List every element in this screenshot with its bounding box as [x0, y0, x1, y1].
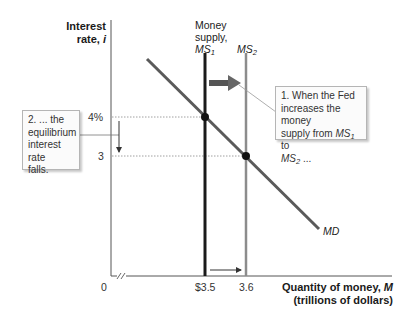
ms1-label: Money supply, MS1	[195, 19, 228, 55]
y-axis-title: Interest rate, i	[66, 20, 106, 46]
md-label: MD	[323, 225, 339, 237]
x-tick-3-6: 3.6	[239, 281, 254, 293]
axis-break-icon	[117, 271, 126, 281]
x-axis-title-line2: (trillions of dollars)	[282, 294, 393, 307]
origin-label: 0	[101, 281, 107, 293]
ms2-label: MS2	[237, 43, 257, 55]
callout-fed-increase: 1. When the Fed increases the money supp…	[275, 86, 367, 140]
x-axis-title-line1: Quantity of money, M	[282, 281, 393, 294]
y-axis-title-line1: Interest	[66, 20, 106, 33]
y-tick-4pct: 4%	[88, 111, 103, 123]
callout-leader	[239, 85, 276, 112]
equilibrium-point-2	[242, 152, 250, 160]
equilibrium-point-1	[201, 113, 209, 121]
y-axis-title-line2: rate, i	[66, 33, 106, 46]
shift-arrow-icon	[209, 75, 241, 91]
callout-rate-falls: 2. ... the equilibrium interest rate fal…	[22, 110, 80, 170]
x-axis-title: Quantity of money, M (trillions of dolla…	[282, 281, 393, 307]
y-tick-3: 3	[98, 150, 104, 162]
x-tick-3-5: $3.5	[195, 281, 215, 293]
